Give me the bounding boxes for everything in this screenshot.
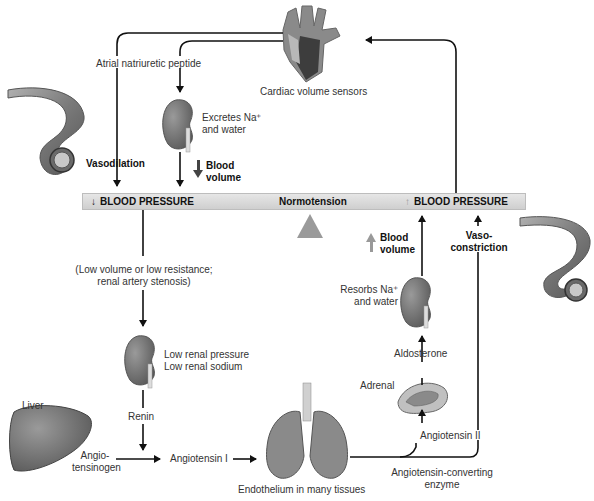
- blood-pressure-bar: ↓BLOOD PRESSURE Normotension ↑BLOOD PRES…: [82, 193, 526, 210]
- anp-label: Atrial natriuretic peptide: [96, 58, 201, 70]
- aldosterone-label: Aldosterone: [394, 348, 447, 360]
- ace-label: Angiotensin-converting enzyme: [380, 467, 504, 491]
- blood-vessel-right-icon: [520, 217, 590, 301]
- vasodilation-label: Vasodilation: [86, 158, 145, 170]
- adrenal-gland-icon: [398, 383, 448, 413]
- adrenal-label: Adrenal: [360, 380, 394, 392]
- kidney-middle-icon: [125, 336, 155, 388]
- normotension-fulcrum: [297, 214, 323, 238]
- angiotensinogen-label: Angio- tensinogen: [72, 450, 118, 474]
- blood-volume-up-arrow-icon: [366, 233, 376, 252]
- blood-volume-increase-label: Blood volume: [380, 232, 415, 256]
- normotension-label: Normotension: [279, 196, 347, 207]
- low-renal-label: Low renal pressure Low renal sodium: [164, 349, 249, 373]
- heart-icon: [283, 6, 340, 82]
- low-blood-pressure-label: ↓BLOOD PRESSURE: [91, 196, 194, 207]
- renin-label: Renin: [128, 411, 154, 423]
- resorbs-label: Resorbs Na⁺ and water: [336, 284, 398, 308]
- blood-volume-down-arrow-icon: [193, 160, 203, 178]
- up-arrow-icon: ↑: [405, 196, 410, 207]
- low-volume-label: (Low volume or low resistance; renal art…: [66, 264, 222, 288]
- high-blood-pressure-label: ↑BLOOD PRESSURE: [405, 196, 508, 207]
- endothelium-label: Endothelium in many tissues: [238, 484, 365, 496]
- blood-volume-decrease-label: Blood volume: [206, 160, 241, 184]
- kidney-top-icon: [163, 100, 193, 152]
- kidney-right-icon: [401, 278, 431, 328]
- liver-label: Liver: [22, 400, 44, 412]
- vasoconstriction-label: Vaso- constriction: [450, 230, 508, 254]
- excretes-label: Excretes Na⁺ and water: [202, 112, 261, 136]
- down-arrow-icon: ↓: [91, 196, 96, 207]
- heart-label: Cardiac volume sensors: [260, 86, 367, 98]
- lungs-icon: [267, 383, 348, 478]
- angiotensin-i-label: Angiotensin I: [170, 453, 228, 465]
- blood-vessel-left-icon: [8, 88, 84, 175]
- angiotensin-ii-label: Angiotensin II: [420, 430, 481, 442]
